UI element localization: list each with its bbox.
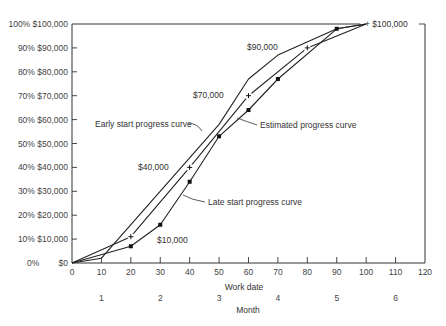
y-tick-label: 70% $70,000: [18, 91, 68, 101]
y-tick-label: 100% $100,000: [8, 19, 68, 29]
y-tick-label: 60% $60,000: [18, 115, 68, 125]
curve-estimated-progress-curve: [72, 24, 366, 263]
y-tick-dollars: $0: [59, 258, 69, 268]
x-tick-label: 120: [418, 267, 432, 277]
annotation-90k: $90,000: [247, 42, 278, 52]
dot-marker: [276, 77, 280, 81]
late-curve-leader: [183, 195, 205, 202]
x-tick-label: 90: [332, 267, 342, 277]
y-tick-label: 40% $40,000: [18, 162, 68, 172]
x-tick-label: 100: [359, 267, 373, 277]
y-axis-ticks: 0%$010% $10,00020% $20,00030% $30,00040%…: [8, 19, 77, 268]
x-tick-label: 110: [389, 267, 403, 277]
annotation-70k: $70,000: [193, 90, 224, 100]
y-tick-label: 20% $20,000: [18, 210, 68, 220]
chart-axes: [72, 24, 425, 263]
y-tick-label: 10% $10,000: [18, 234, 68, 244]
month-label: 6: [393, 293, 398, 303]
month-axis-title: Month: [236, 305, 260, 315]
curve-early-start-progress-curve: [72, 24, 366, 263]
early-curve-label: Early start progress curve: [95, 119, 192, 129]
estimated-curve-label: Estimated progress curve: [260, 120, 357, 130]
month-label: 1: [99, 293, 104, 303]
dot-marker: [158, 223, 162, 227]
x-axis-ticks: 0102030405060708090100110120: [70, 257, 433, 277]
progress-curves: [72, 24, 366, 263]
curve-late-start-progress-curve: [72, 24, 366, 263]
x-tick-label: 70: [273, 267, 283, 277]
y-tick-label: 80% $80,000: [18, 67, 68, 77]
y-tick-label: 90% $90,000: [18, 43, 68, 53]
dot-marker: [217, 134, 221, 138]
dot-marker: [247, 108, 251, 112]
x-tick-label: 20: [126, 267, 136, 277]
y-tick-pct: 0%: [27, 258, 40, 268]
dot-marker: [188, 180, 192, 184]
annotation-10k: $10,000: [157, 235, 188, 245]
annotation-100k: + $100,000: [365, 19, 408, 29]
x-tick-label: 10: [97, 267, 107, 277]
x-tick-label: 40: [185, 267, 195, 277]
month-ticks: 123456: [99, 293, 398, 303]
month-label: 4: [276, 293, 281, 303]
month-label: 2: [158, 293, 163, 303]
x-tick-label: 0: [70, 267, 75, 277]
month-label: 3: [217, 293, 222, 303]
x-axis-title: Work date: [225, 282, 264, 292]
late-curve-label: Late start progress curve: [208, 197, 302, 207]
annotation-40k: $40,000: [138, 162, 169, 172]
estimated-curve-leader: [237, 118, 257, 125]
y-tick-label: 30% $30,000: [18, 186, 68, 196]
x-tick-label: 80: [303, 267, 313, 277]
y-tick-label: 50% $50,000: [18, 139, 68, 149]
x-tick-label: 30: [156, 267, 166, 277]
s-curve-chart: 0%$010% $10,00020% $20,00030% $30,00040%…: [0, 0, 446, 326]
month-label: 5: [334, 293, 339, 303]
dot-marker: [129, 244, 133, 248]
x-tick-label: 50: [214, 267, 224, 277]
x-tick-label: 60: [244, 267, 254, 277]
dot-marker: [335, 27, 339, 31]
